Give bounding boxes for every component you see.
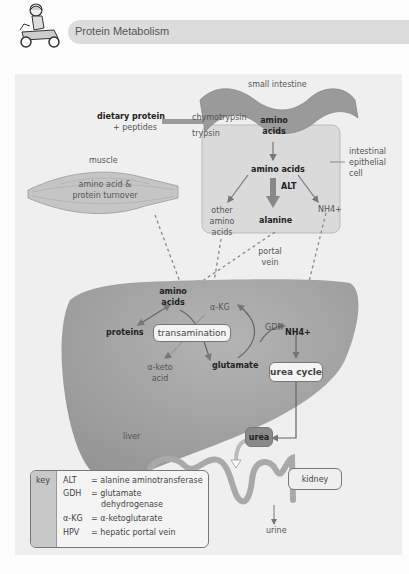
key-row: HPV= hepatic portal vein xyxy=(63,528,176,538)
key-legend: key ALT= alanine aminotransferase GDH= g… xyxy=(30,470,209,548)
cell-nh4-label: NH4+ xyxy=(318,205,342,215)
other-amino-acids-1: other xyxy=(207,206,237,216)
kidney-box: kidney xyxy=(288,468,342,490)
portal-vein-label-1: portal xyxy=(255,247,285,257)
chymotrypsin-label: chymotrypsin xyxy=(192,113,247,123)
liver-nh4-label: NH4+ xyxy=(285,328,311,338)
transamination-box: transamination xyxy=(153,324,231,342)
muscle-label: muscle xyxy=(89,156,118,166)
intestine-acids-label: acids xyxy=(259,127,289,137)
alanine-label: alanine xyxy=(259,216,292,226)
key-title: key xyxy=(36,476,50,485)
epithelial-label-2: epithelial xyxy=(349,158,386,168)
glutamate-label: glutamate xyxy=(212,361,258,371)
small-intestine-label: small intestine xyxy=(248,80,307,90)
alt-label: ALT xyxy=(281,182,296,192)
urea-box: urea xyxy=(245,427,273,447)
intestine-amino-label: amino xyxy=(259,116,289,126)
liver-amino-label: amino xyxy=(158,287,188,297)
proteins-label: proteins xyxy=(106,328,144,338)
key-row: ALT= alanine aminotransferase xyxy=(63,476,203,486)
peptides-label: + peptides xyxy=(113,123,157,133)
key-row: dehydrogenase xyxy=(63,500,163,510)
alpha-keto-acid-2: acid xyxy=(145,374,175,384)
muscle-text-2: protein turnover xyxy=(60,191,150,201)
key-row: GDH= glutamate xyxy=(63,489,141,499)
muscle-text-1: amino acid & xyxy=(60,180,150,190)
cell-amino-acids-label: amino acids xyxy=(251,165,305,175)
other-amino-acids-3: acids xyxy=(207,228,237,238)
urea-cycle-box: urea cycle xyxy=(269,362,323,382)
epithelial-label-3: cell xyxy=(349,169,363,179)
alpha-kg-label: α-KG xyxy=(210,303,230,313)
other-amino-acids-2: amino xyxy=(207,217,237,227)
alpha-keto-acid-1: α-keto xyxy=(145,363,175,373)
liver-label: liver xyxy=(123,432,140,442)
key-row: α-KG= α-ketoglutarate xyxy=(63,514,162,524)
dietary-protein-label: dietary protein xyxy=(97,112,165,122)
portal-vein-label-2: vein xyxy=(255,258,285,268)
urine-label: urine xyxy=(266,526,287,536)
liver-acids-label: acids xyxy=(158,298,188,308)
trypsin-label: trypsin xyxy=(192,129,220,139)
gdh-label: GDH xyxy=(265,323,283,333)
epithelial-label-1: intestinal xyxy=(349,147,386,157)
